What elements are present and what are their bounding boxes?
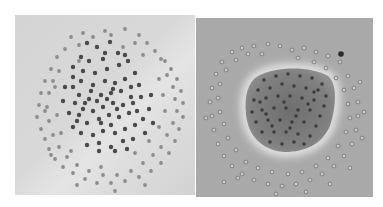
classifier-output-panel (196, 18, 373, 197)
outer-ring-point (165, 133, 169, 137)
inner-class-point (292, 140, 295, 143)
inner-class-point (268, 140, 271, 143)
outer-ring-point (210, 86, 214, 90)
outer-ring-point (61, 165, 65, 169)
inner-class-point (107, 113, 111, 117)
inner-class-point (116, 51, 120, 55)
inner-class-point (83, 101, 87, 105)
outer-ring-point (326, 54, 330, 58)
inner-class-point (266, 118, 269, 121)
outer-ring-point (304, 190, 308, 194)
inner-class-point (268, 86, 271, 89)
outer-ring-point (286, 172, 290, 176)
outer-ring-point (91, 35, 95, 39)
outer-ring-point (226, 136, 230, 140)
inner-class-point (79, 55, 83, 59)
outer-ring-point (270, 170, 274, 174)
outer-ring-point (75, 183, 79, 187)
inner-class-point (131, 101, 135, 105)
outer-ring-point (173, 97, 177, 101)
inner-class-point (85, 121, 89, 125)
inner-class-point (250, 110, 253, 113)
outer-ring-point (63, 47, 67, 51)
inner-class-point (276, 94, 279, 97)
outer-ring-point (51, 133, 55, 137)
outer-ring-point (240, 172, 244, 176)
inner-class-point (280, 142, 283, 145)
outer-ring-point (350, 142, 354, 146)
outer-ring-point (81, 31, 85, 35)
inner-class-point (97, 117, 101, 121)
outer-ring-point (153, 49, 157, 53)
outer-ring-point (75, 163, 79, 167)
outer-ring-point (230, 50, 234, 54)
inner-class-point (282, 100, 285, 103)
outer-ring-point (314, 164, 318, 168)
outer-ring-point (252, 44, 256, 48)
inner-class-point (61, 99, 65, 103)
outer-ring-point (95, 181, 99, 185)
outer-ring-point (49, 67, 53, 71)
outer-ring-point (234, 148, 238, 152)
outer-ring-point (236, 176, 240, 180)
inner-class-point (139, 95, 143, 99)
inner-class-point (123, 127, 127, 131)
inner-class-point (260, 130, 263, 133)
inner-class-point (302, 120, 305, 123)
inner-class-point (312, 90, 315, 93)
outer-ring-point (157, 77, 161, 81)
outer-ring-point (256, 166, 260, 170)
outer-ring-point (121, 45, 125, 49)
inner-class-point (131, 137, 135, 141)
inner-class-point (300, 96, 303, 99)
outer-ring-point (47, 119, 51, 123)
outer-ring-point (181, 115, 185, 119)
outer-ring-point (55, 55, 59, 59)
inner-class-point (292, 84, 295, 87)
outer-ring-point (143, 183, 147, 187)
inner-class-point (278, 118, 281, 121)
outer-ring-point (177, 127, 181, 131)
outer-ring-point (77, 59, 81, 63)
outer-ring-point (240, 46, 244, 50)
outer-ring-point (328, 182, 332, 186)
outer-ring-point (37, 103, 41, 107)
outlier-point (338, 51, 344, 57)
outer-ring-point (342, 154, 346, 158)
inner-class-point (105, 67, 109, 71)
inner-class-point (254, 120, 257, 123)
outer-ring-point (338, 60, 342, 64)
outer-ring-point (348, 116, 352, 120)
inner-class-point (77, 113, 81, 117)
inner-class-point (123, 53, 127, 57)
inner-class-point (91, 83, 95, 87)
inner-class-point (87, 97, 91, 101)
inner-class-point (113, 131, 117, 135)
outer-ring-point (159, 57, 163, 61)
outer-ring-point (51, 79, 55, 83)
outer-ring-point (274, 192, 278, 196)
inner-class-point (324, 94, 327, 97)
inner-class-point (298, 74, 301, 77)
inner-class-point (284, 130, 287, 133)
inner-class-point (111, 101, 115, 105)
outer-ring-point (71, 171, 75, 175)
outer-ring-point (224, 68, 228, 72)
outer-ring-point (129, 169, 133, 173)
outer-ring-point (266, 42, 270, 46)
inner-class-point (258, 100, 261, 103)
inner-class-point (252, 98, 255, 101)
outer-ring-point (163, 59, 167, 63)
inner-class-point (129, 95, 133, 99)
outer-ring-point (169, 67, 173, 71)
outer-ring-point (214, 72, 218, 76)
outer-ring-point (266, 182, 270, 186)
outer-ring-point (55, 113, 59, 117)
outer-ring-point (208, 100, 212, 104)
inner-class-point (77, 93, 81, 97)
inner-class-point (85, 143, 89, 147)
outer-ring-point (320, 172, 324, 176)
plot-background (15, 15, 195, 195)
outer-ring-point (204, 116, 208, 120)
inner-class-point (260, 108, 263, 111)
